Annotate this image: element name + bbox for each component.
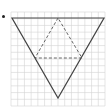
grid-lines — [11, 12, 105, 106]
triangle-grid-diagram — [0, 0, 110, 110]
